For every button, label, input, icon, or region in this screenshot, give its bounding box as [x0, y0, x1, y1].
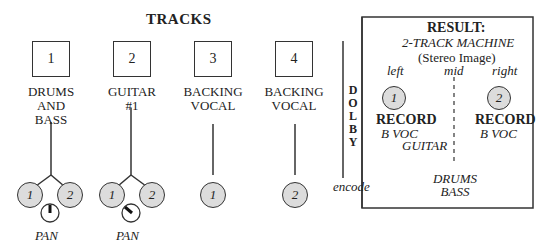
- result-left-channel: 1: [382, 86, 406, 110]
- track-4-box: 4: [275, 41, 313, 77]
- track-4-label: BACKING VOCAL: [249, 85, 339, 113]
- right-content-1: B VOC: [480, 126, 517, 142]
- track-3-label: BACKING VOCAL: [168, 85, 258, 113]
- position-right: right: [492, 63, 517, 79]
- track-3-box: 3: [194, 41, 232, 77]
- result-heading: RESULT:: [427, 20, 485, 36]
- track-1-output-1: 1: [17, 182, 43, 208]
- track-4-output-2: 2: [282, 182, 308, 208]
- track-3-output-1: 1: [200, 182, 226, 208]
- track-1-label: DRUMS AND BASS: [6, 85, 96, 127]
- track-2-output-2: 2: [139, 182, 165, 208]
- position-left: left: [387, 63, 404, 79]
- position-mid: mid: [444, 63, 464, 79]
- center-contents: DRUMS BASS: [430, 172, 480, 198]
- diagram-title: TRACKS: [146, 11, 212, 28]
- track-1-box: 1: [32, 41, 70, 77]
- pan-label-2: PAN: [116, 228, 139, 244]
- left-content-2: GUITAR: [402, 138, 447, 154]
- track-2-output-1: 1: [99, 182, 125, 208]
- pan-label-1: PAN: [35, 228, 58, 244]
- result-machine: 2-TRACK MACHINE: [402, 35, 514, 51]
- result-right-channel: 2: [487, 86, 511, 110]
- track-2-box: 2: [113, 41, 151, 77]
- dolby-label: D O L B Y: [346, 84, 360, 149]
- track-1-output-2: 2: [57, 182, 83, 208]
- track-2-label: GUITAR #1: [87, 85, 177, 113]
- encode-label: encode: [333, 179, 370, 195]
